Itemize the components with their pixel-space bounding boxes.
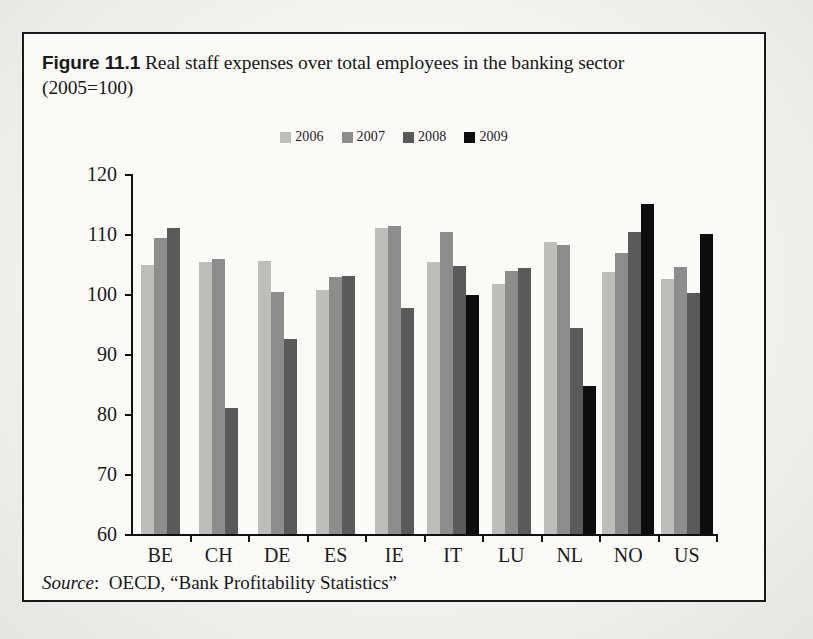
figure-box: Figure 11.1 Real staff expenses over tot… — [22, 32, 766, 602]
source-text: OECD, “Bank Profitability Statistics” — [109, 572, 397, 593]
bar-IT-2007 — [440, 232, 453, 534]
bar-BE-2006 — [141, 265, 154, 534]
bar-ES-2006 — [316, 290, 329, 534]
source-separator: : — [94, 572, 99, 593]
bar-ES-2008 — [342, 276, 355, 534]
bar-group-ES — [307, 174, 366, 534]
y-tick-label-100: 100 — [57, 283, 117, 306]
x-axis-label-US: US — [652, 544, 722, 567]
bar-group-IE — [365, 174, 424, 534]
bar-NL-2007 — [557, 245, 570, 534]
bar-CH-2006 — [199, 262, 212, 534]
bar-NO-2008 — [628, 232, 641, 534]
x-tick-mark-ES — [365, 534, 367, 542]
x-tick-mark-NL — [599, 534, 601, 542]
y-tick-mark-60 — [125, 534, 133, 536]
y-tick-label-70: 70 — [57, 463, 117, 486]
bar-IE-2006 — [375, 228, 388, 534]
bar-BE-2007 — [154, 238, 167, 534]
bar-group-LU — [482, 174, 541, 534]
y-tick-label-110: 110 — [57, 223, 117, 246]
x-tick-mark-CH — [248, 534, 250, 542]
bar-CH-2008 — [225, 408, 238, 534]
x-tick-mark-IE — [424, 534, 426, 542]
x-tick-mark-BE — [190, 534, 192, 542]
bar-group-US — [658, 174, 717, 534]
bar-IE-2008 — [401, 308, 414, 534]
figure-source: Source: OECD, “Bank Profitability Statis… — [42, 572, 397, 594]
bar-IT-2006 — [427, 262, 440, 534]
bar-US-2009 — [700, 234, 713, 534]
bar-LU-2006 — [492, 284, 505, 534]
bar-IT-2009 — [466, 295, 479, 534]
bar-group-CH — [190, 174, 249, 534]
page-background: Figure 11.1 Real staff expenses over tot… — [0, 0, 813, 639]
y-tick-label-90: 90 — [57, 343, 117, 366]
bar-LU-2008 — [518, 268, 531, 534]
bar-DE-2006 — [258, 261, 271, 534]
bar-group-BE — [131, 174, 190, 534]
bar-US-2007 — [674, 267, 687, 534]
bar-LU-2007 — [505, 271, 518, 534]
bar-group-IT — [424, 174, 483, 534]
bar-IE-2007 — [388, 226, 401, 534]
bar-NO-2007 — [615, 253, 628, 534]
bar-IT-2008 — [453, 266, 466, 534]
bar-group-NL — [541, 174, 600, 534]
source-label: Source — [42, 572, 94, 593]
x-tick-mark-NO — [658, 534, 660, 542]
bar-NO-2006 — [602, 272, 615, 534]
plot-area: 60708090100110120 BECHDEESIEITLUNLNOUS — [24, 34, 764, 600]
bar-NO-2009 — [641, 204, 654, 534]
bar-BE-2008 — [167, 228, 180, 534]
y-tick-label-80: 80 — [57, 403, 117, 426]
x-tick-mark-US — [716, 534, 718, 542]
bar-US-2006 — [661, 279, 674, 534]
bar-group-DE — [248, 174, 307, 534]
bar-ES-2007 — [329, 277, 342, 534]
bar-DE-2008 — [284, 339, 297, 534]
bar-group-NO — [599, 174, 658, 534]
x-tick-mark-LU — [541, 534, 543, 542]
y-tick-label-120: 120 — [57, 163, 117, 186]
bar-NL-2006 — [544, 242, 557, 534]
bar-US-2008 — [687, 293, 700, 534]
bar-DE-2007 — [271, 292, 284, 534]
x-tick-mark-DE — [307, 534, 309, 542]
x-tick-mark-IT — [482, 534, 484, 542]
bar-CH-2007 — [212, 259, 225, 534]
y-tick-label-60: 60 — [57, 523, 117, 546]
bar-NL-2009 — [583, 386, 596, 534]
bars-container — [131, 174, 716, 534]
bar-NL-2008 — [570, 328, 583, 534]
